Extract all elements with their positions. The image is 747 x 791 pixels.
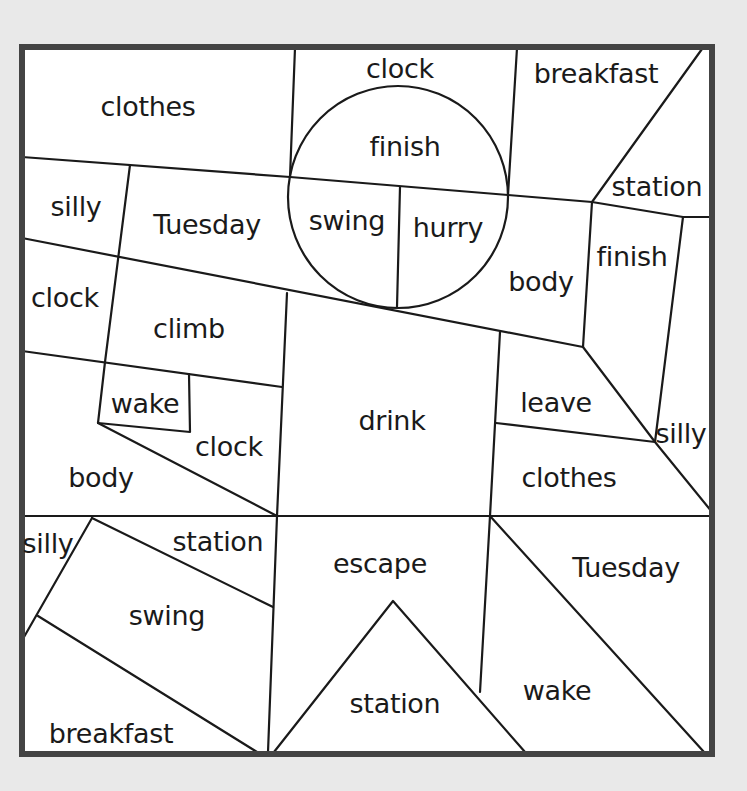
region-station-triangle[interactable]: station [350,690,441,717]
color-by-word-worksheet: clothes clock breakfast finish station s… [0,0,747,791]
region-station-bottom-left[interactable]: station [173,528,264,555]
region-swing-circle[interactable]: swing [309,207,385,234]
region-tuesday-left[interactable]: Tuesday [153,211,261,238]
region-finish-circle[interactable]: finish [370,133,441,160]
region-breakfast-bottom[interactable]: breakfast [49,720,173,747]
region-swing-bottom[interactable]: swing [129,602,205,629]
region-clock-top[interactable]: clock [366,55,434,82]
region-escape[interactable]: escape [333,550,427,577]
region-clock-left[interactable]: clock [31,284,99,311]
region-clothes-top-left[interactable]: clothes [100,93,195,120]
region-clothes-right[interactable]: clothes [521,464,616,491]
region-climb[interactable]: climb [153,315,225,342]
region-body-center[interactable]: body [508,268,574,295]
region-wake-box[interactable]: wake [111,390,180,417]
region-station-top-right[interactable]: station [612,173,703,200]
region-breakfast-top[interactable]: breakfast [534,60,658,87]
region-drink[interactable]: drink [359,407,426,434]
region-tuesday-bottom-right[interactable]: Tuesday [572,554,680,581]
region-silly-right[interactable]: silly [655,420,706,447]
region-hurry-circle[interactable]: hurry [413,214,483,241]
region-clock-middle[interactable]: clock [195,433,263,460]
region-silly-left[interactable]: silly [50,193,101,220]
region-leave[interactable]: leave [520,389,592,416]
region-body-left[interactable]: body [68,464,134,491]
region-finish-right[interactable]: finish [597,243,668,270]
region-silly-bottom-left[interactable]: silly [22,530,73,557]
region-wake-bottom[interactable]: wake [523,677,592,704]
